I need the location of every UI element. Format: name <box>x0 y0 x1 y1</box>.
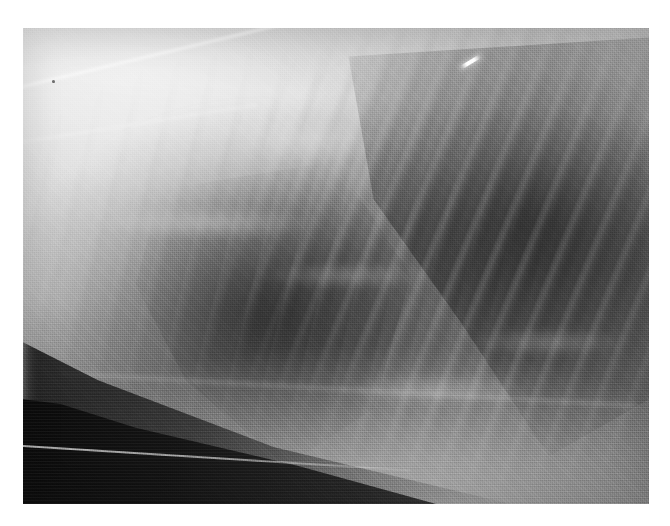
scapular-border-line-second <box>23 103 258 146</box>
scan-line-banding <box>23 28 649 504</box>
table-edge-wedge <box>23 28 649 504</box>
table-edge-highlight-line <box>23 445 410 471</box>
rib-shadows-cranial <box>23 28 649 504</box>
plate-vignette <box>23 28 649 504</box>
halftone-grain-diagonal <box>23 28 649 504</box>
vertebral-column-band <box>23 28 649 504</box>
dust-speck-artifact <box>52 80 55 83</box>
diaphragm-interface <box>23 28 649 504</box>
radiograph-page <box>0 0 670 526</box>
diaphragm-border-line <box>60 371 635 408</box>
cranial-thorax-soft-tissue <box>23 28 649 504</box>
rib-shadows-caudal <box>23 28 649 504</box>
radiopaque-marker-icon <box>460 55 480 69</box>
radiograph-plate <box>23 28 649 504</box>
caudodorsal-lung-field <box>23 28 649 504</box>
cardiac-silhouette <box>23 28 649 504</box>
caudodorsal-lung-halo <box>23 28 649 504</box>
table-edge-penumbra <box>23 28 649 504</box>
pulmonary-vascular-wisps <box>23 28 649 504</box>
cardiac-silhouette-core <box>23 28 649 504</box>
exposure-base-layer <box>23 28 649 504</box>
halftone-grain-fine <box>23 28 649 504</box>
scapular-border-line <box>23 28 339 95</box>
